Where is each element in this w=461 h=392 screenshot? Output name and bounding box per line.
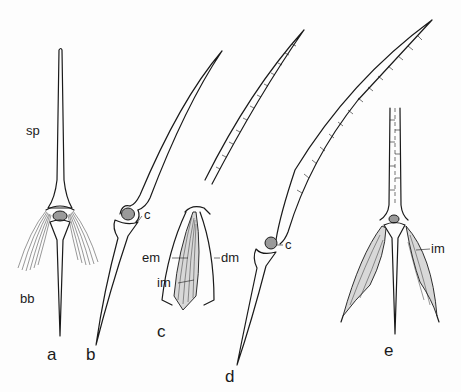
annotation-c-d: c (285, 237, 292, 252)
panel-a: sp bb a (18, 49, 98, 365)
base-a (50, 220, 70, 336)
muscle-left-e (343, 226, 386, 316)
spine-shaft-e (380, 108, 408, 220)
spine-shaft-d (276, 20, 432, 244)
fibre-fan-left (18, 211, 51, 271)
spine-shaft-b (130, 51, 222, 210)
panel-label-a: a (47, 345, 57, 364)
annotation-c-b: c (144, 207, 151, 222)
base-d (237, 249, 276, 365)
condyle-e (389, 215, 399, 223)
panel-c: em dm im c (142, 30, 304, 341)
muscle-im-c (174, 212, 199, 310)
panel-e: im e (341, 108, 445, 360)
condyle-b (122, 208, 135, 220)
figure-canvas: sp bb a c b em (0, 0, 461, 392)
spine-shaft-a (48, 49, 72, 209)
annotation-im-e: im (431, 241, 445, 256)
muscle-im-e (406, 226, 437, 316)
fibre-fan-right (68, 211, 98, 265)
annotation-dm: dm (221, 250, 239, 265)
base-e (384, 223, 405, 335)
panel-label-c: c (157, 322, 166, 341)
annotation-im-c: im (157, 275, 171, 290)
annotation-em: em (142, 250, 160, 265)
panel-label-d: d (225, 367, 234, 386)
panel-label-b: b (86, 345, 95, 364)
annotation-bb: bb (20, 291, 34, 306)
panel-label-e: e (384, 341, 393, 360)
condyle-d (265, 237, 277, 249)
figure-illustration: sp bb a c b em (0, 0, 461, 392)
base-b (96, 220, 138, 345)
annotation-sp: sp (26, 123, 40, 138)
